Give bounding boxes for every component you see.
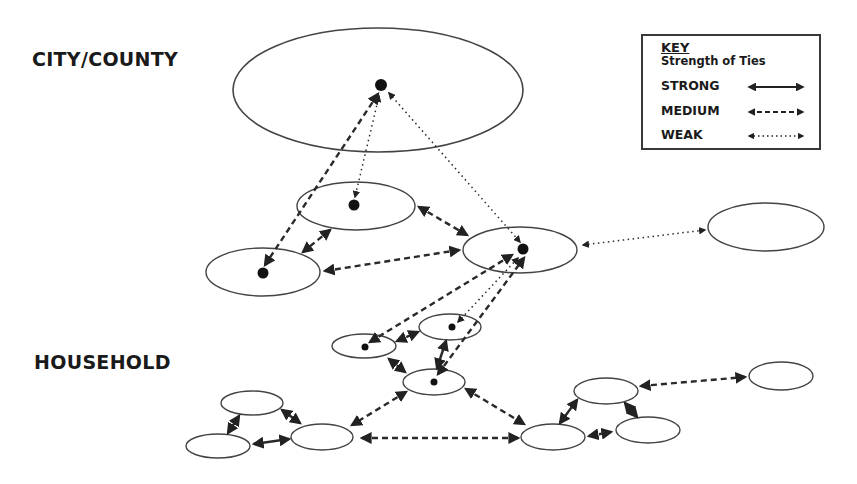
node-mid-right — [708, 203, 824, 251]
tie-medium-hh-c-hh-g — [466, 389, 524, 424]
tie-weak-hh-b-mid-center — [458, 258, 518, 322]
node-dot — [449, 324, 456, 331]
node-hh-a — [332, 334, 396, 358]
tie-medium-hh-a-hh-c — [389, 359, 405, 372]
node-ellipse — [521, 424, 585, 450]
tie-medium-mid-upper-mid-left — [303, 230, 330, 252]
tie-medium-hh-h-hh-j — [641, 377, 745, 386]
node-dot — [349, 200, 360, 211]
node-ellipse — [186, 434, 250, 458]
medium-tie-arrow-icon — [745, 106, 807, 118]
strong-tie-arrow-icon — [745, 81, 807, 93]
node-hh-h — [574, 378, 638, 404]
node-ellipse — [616, 417, 680, 443]
key-label-medium: MEDIUM — [661, 103, 720, 118]
node-hh-f — [291, 424, 353, 450]
node-ellipse — [291, 424, 353, 450]
node-ellipse — [221, 391, 283, 415]
key-label-strong: STRONG — [661, 78, 720, 93]
node-hh-i — [616, 417, 680, 443]
node-hh-c — [403, 369, 465, 395]
key-title: KEY — [661, 40, 689, 55]
key-subtitle: Strength of Ties — [661, 54, 766, 68]
tie-strong-hh-g-hh-h — [560, 400, 577, 423]
tie-medium-city-mid-left — [265, 94, 378, 265]
node-dot — [375, 79, 387, 91]
tie-medium-hh-a-mid-center — [370, 255, 512, 342]
tie-strong-hh-h-hh-i — [625, 403, 637, 417]
tie-weak-mid-center-mid-right — [583, 230, 705, 245]
node-hh-g — [521, 424, 585, 450]
node-dot — [518, 244, 529, 255]
node-hh-j — [749, 362, 813, 390]
node-hh-e — [186, 434, 250, 458]
tie-medium-hh-a-hh-b — [397, 332, 418, 341]
legend-key: KEY Strength of Ties STRONG MEDIUM WEAK — [641, 34, 821, 150]
node-mid-center — [463, 227, 577, 273]
key-label-weak: WEAK — [661, 127, 703, 142]
node-dot — [362, 344, 369, 351]
tie-strong-hh-d-hh-f — [282, 410, 300, 423]
tie-weak-city-mid-center — [389, 93, 520, 242]
node-dot — [431, 379, 438, 386]
tie-medium-mid-upper-mid-center — [419, 207, 467, 235]
node-hh-d — [221, 391, 283, 415]
weak-tie-arrow-icon — [745, 130, 807, 142]
tie-medium-hh-g-hh-i — [589, 432, 611, 436]
node-ellipse — [708, 203, 824, 251]
tie-medium-hh-c-hh-f — [352, 392, 406, 425]
node-mid-left — [206, 248, 320, 296]
node-ellipse — [749, 362, 813, 390]
node-city — [233, 28, 523, 152]
node-dot — [258, 268, 269, 279]
node-hh-b — [419, 314, 481, 340]
node-ellipse — [574, 378, 638, 404]
tie-strong-hh-d-hh-e — [228, 416, 239, 433]
tie-medium-hh-c-mid-center — [438, 258, 524, 374]
tie-strong-hh-e-hh-f — [254, 439, 289, 444]
tie-medium-mid-left-mid-center — [325, 250, 459, 271]
